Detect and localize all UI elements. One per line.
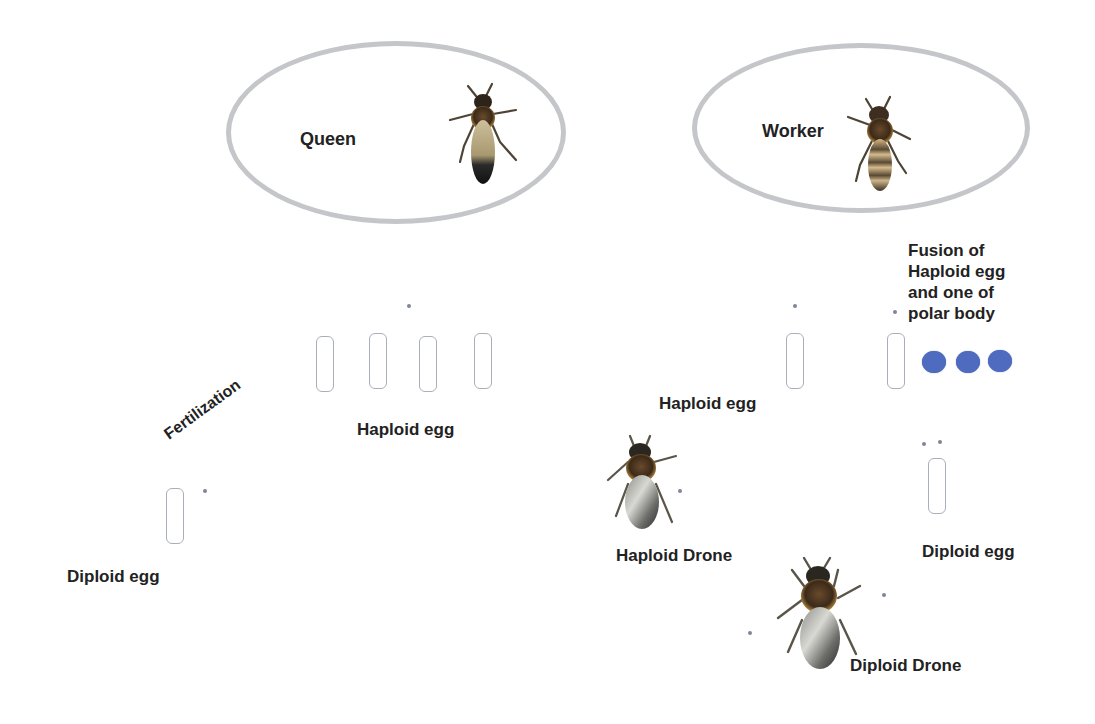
haploid-drone-label: Haploid Drone: [616, 546, 732, 566]
haploid-egg-label-right: Haploid egg: [659, 394, 756, 414]
sperm-dot: [893, 310, 897, 314]
diploid-egg-label-left: Diploid egg: [67, 567, 160, 587]
haploid-egg: [316, 336, 334, 392]
sperm-dot: [407, 304, 411, 308]
haploid-egg: [419, 336, 437, 392]
sperm-dot: [678, 489, 682, 493]
sperm-dot: [203, 489, 207, 493]
queen-label: Queen: [300, 129, 356, 149]
queen-bee-icon: [438, 80, 528, 190]
sperm-dot: [793, 304, 797, 308]
diploid-drone-label: Diploid Drone: [850, 656, 961, 676]
fusion-egg: [887, 333, 905, 389]
fertilization-label: Fertilization: [160, 375, 244, 444]
haploid-drone-icon: [598, 432, 688, 537]
sperm-dot: [922, 442, 926, 446]
haploid-egg-label-left: Haploid egg: [357, 420, 454, 440]
diploid-egg: [928, 458, 946, 514]
polar-body: [956, 351, 980, 373]
haploid-egg: [369, 333, 387, 389]
fusion-label: Fusion of Haploid egg and one of polar b…: [908, 240, 1005, 324]
worker-bee-icon: [840, 95, 920, 195]
diploid-egg: [166, 488, 184, 544]
sperm-dot: [938, 440, 942, 444]
haploid-egg: [786, 333, 804, 389]
sperm-dot: [748, 631, 752, 635]
haploid-egg: [474, 333, 492, 389]
polar-body: [988, 350, 1012, 372]
worker-label: Worker: [762, 121, 824, 141]
polar-body: [922, 351, 946, 373]
sperm-dot: [882, 593, 886, 597]
diploid-egg-label-right: Diploid egg: [922, 542, 1015, 562]
